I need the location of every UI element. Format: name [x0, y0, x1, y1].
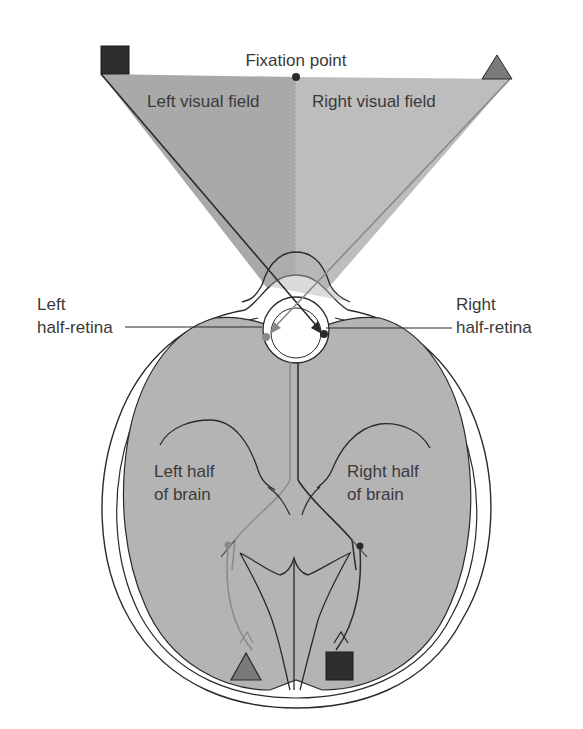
- left-brain-label-line2: of brain: [154, 485, 211, 504]
- right-half-retina-label-line2: half-retina: [456, 318, 532, 337]
- left-half-retina-dot: [262, 333, 270, 341]
- left-brain-label-line1: Left half: [154, 462, 215, 481]
- square-object-icon: [101, 46, 129, 74]
- left-visual-field-region: [101, 74, 296, 325]
- right-brain-label-line1: Right half: [347, 462, 419, 481]
- triangle-object-icon: [482, 55, 512, 79]
- left-half-retina-label-line2: half-retina: [37, 318, 113, 337]
- right-half-retina-label-line1: Right: [456, 295, 496, 314]
- right-lgn-dot: [357, 543, 364, 550]
- eye-inner: [271, 308, 321, 358]
- left-lgn-dot: [225, 542, 232, 549]
- right-brain-square-icon: [326, 652, 353, 680]
- right-half-retina-dot: [320, 330, 328, 338]
- fixation-point-label: Fixation point: [245, 51, 346, 70]
- fixation-point-dot: [292, 73, 300, 81]
- right-visual-field-label: Right visual field: [312, 92, 436, 111]
- left-visual-field-label: Left visual field: [147, 92, 259, 111]
- visual-pathway-diagram: Fixation point Left visual field Right v…: [0, 0, 583, 729]
- left-half-retina-label-line1: Left: [37, 295, 66, 314]
- right-brain-label-line2: of brain: [347, 485, 404, 504]
